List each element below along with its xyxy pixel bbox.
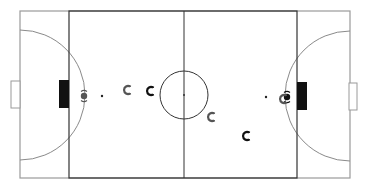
inner-field: [69, 11, 297, 178]
player-p4-icon: [243, 132, 250, 140]
right-penalty-spot: [265, 96, 267, 98]
player-p1-icon: [124, 86, 131, 94]
center-spot: [183, 94, 185, 96]
left-goal-area: [59, 80, 69, 108]
left-penalty-arc: [20, 30, 85, 160]
futsal-field: [0, 0, 365, 187]
right-goal-box: [349, 83, 357, 110]
left-goal-box: [11, 81, 20, 108]
player-p3-icon: [208, 113, 215, 121]
right-goal-area: [297, 82, 307, 110]
left-penalty-spot: [101, 95, 103, 97]
player-p2-icon: [147, 87, 154, 95]
right-penalty-arc: [285, 31, 350, 161]
players-layer: [81, 86, 290, 140]
player-gk-left-icon: [81, 91, 87, 102]
